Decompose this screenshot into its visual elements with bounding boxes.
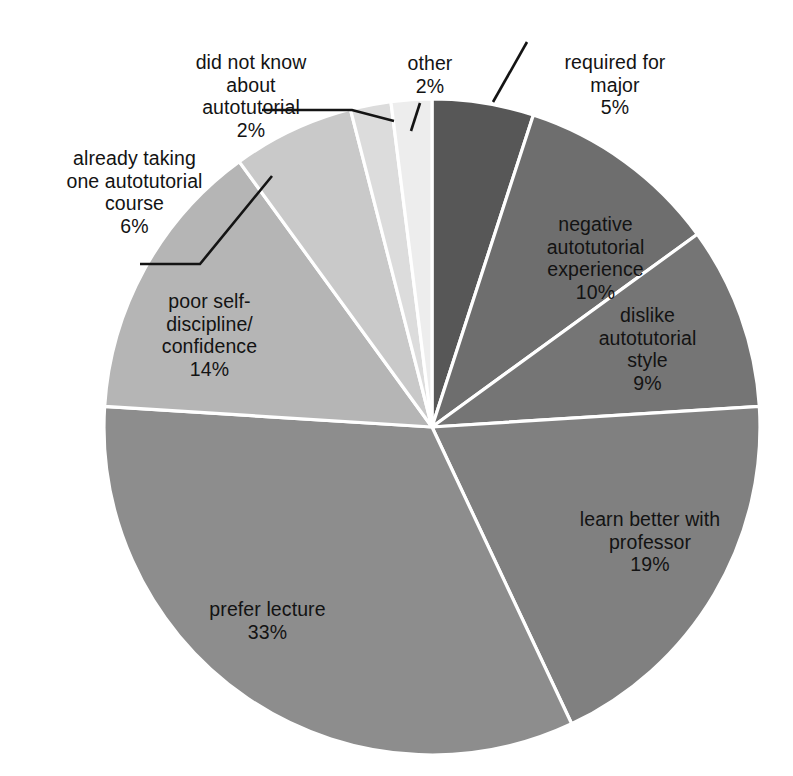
pie-chart-page: did not know about autotutorial 2% other… (0, 0, 793, 776)
slice-label-text: negative autotutorial experience (547, 213, 645, 281)
slice-label-text: prefer lecture (209, 598, 325, 620)
slice-label-text: dislike autotutorial style (599, 304, 697, 372)
slice-label-already-taking-one-autotutorial-course: already taking one autotutorial course 6… (12, 124, 257, 261)
slice-label-text: other (408, 52, 453, 74)
slice-label-percent: 2% (370, 75, 490, 98)
slice-label-percent: 19% (545, 553, 755, 576)
slice-label-text: already taking one autotutorial course (66, 147, 202, 215)
slice-label-percent: 5% (520, 96, 710, 119)
slice-label-poor-self-discipline-confidence: poor self- discipline/ confidence 14% (112, 267, 307, 404)
slice-label-prefer-lecture: prefer lecture 33% (160, 575, 375, 666)
slice-label-percent: 9% (555, 372, 740, 395)
slice-label-text: required for major (565, 51, 666, 96)
slice-label-dislike-autotutorial-style: dislike autotutorial style 9% (555, 281, 740, 418)
slice-label-percent: 14% (112, 358, 307, 381)
slice-label-text: poor self- discipline/ confidence (162, 290, 257, 358)
slice-label-percent: 6% (12, 215, 257, 238)
slice-label-learn-better-with-professor: learn better with professor 19% (545, 485, 755, 599)
slice-label-required-for-major: required for major 5% (520, 28, 710, 142)
slice-label-other: other 2% (370, 29, 490, 120)
slice-label-percent: 33% (160, 621, 375, 644)
slice-label-text: did not know about autotutorial (196, 51, 307, 119)
slice-label-text: learn better with professor (580, 508, 720, 553)
